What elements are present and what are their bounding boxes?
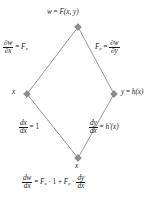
result-equals: = [34,179,38,187]
result-plus: + [58,179,62,187]
edge-label-top-right: Fy = ∂w ∂y [95,40,120,56]
node-label-top: w = F(x, y) [47,9,79,17]
result-term1: Fx [40,179,47,187]
result-equation: dw dx = Fx · 1 + Fy · dy dx [22,175,85,191]
chain-rule-tree-diagram: w = F(x, y) ∂w ∂x = Fx Fy = ∂w ∂y x y = … [0,0,163,201]
edge-label-top-right-denominator: ∂y [109,48,119,55]
result-term2: Fy [64,179,71,187]
edge-label-right-bottom: dy dx = h′(x) [89,120,119,136]
edge-label-top-right-lhs-sub: y [99,46,101,51]
edge-top-left-line [27,27,78,94]
edge-label-top-left-fraction: ∂w ∂x [3,40,13,56]
result-term1-sub: x [44,181,46,186]
result-lhs-denominator: dx [22,183,32,190]
node-label-right-equals: = [126,88,130,96]
result-term1-factor: 1 [53,179,57,187]
edge-top-right-line [78,27,114,94]
edge-label-top-left-rhs-sub: x [25,46,27,51]
tree-diagram-graphic [0,0,163,201]
edge-label-top-left-equals: = [15,44,19,52]
edge-label-left-bottom-equals: = [30,124,34,132]
node-marker-right [111,91,118,98]
result-dot1: · [48,179,50,187]
edge-label-right-bottom-rhs: h′(x) [105,124,118,132]
edge-label-right-bottom-equals: = [100,124,104,132]
edge-label-left-bottom-fraction: dx dx [19,120,28,136]
edge-label-right-bottom-denominator: dx [89,128,98,135]
edge-label-right-bottom-fraction: dy dx [89,120,98,136]
node-label-top-lhs: w [47,8,52,16]
result-term2-denominator: dx [76,183,85,190]
edge-label-left-bottom-rhs: 1 [35,124,39,132]
node-label-right-lhs: y [121,88,124,96]
edge-label-top-left: ∂w ∂x = Fx [3,40,28,56]
edge-label-top-left-denominator: ∂x [3,48,13,55]
edge-label-top-left-rhs: Fx [21,44,28,52]
node-label-right: y = h(x) [121,89,143,97]
node-label-top-equals: = [54,8,58,16]
result-term2-sub: y [68,181,70,186]
result-term2-fraction: dy dx [76,175,85,191]
node-label-right-rhs: h(x) [132,88,144,96]
edge-label-left-bottom: dx dx = 1 [19,120,39,136]
edge-label-top-right-equals: = [103,44,107,52]
result-dot2: · [72,179,74,187]
node-marker-top [75,24,82,31]
node-label-left: x [12,89,15,97]
result-lhs-fraction: dw dx [22,175,32,191]
node-label-top-rhs: F(x, y) [59,8,78,16]
node-label-bottom: x [75,163,78,171]
edge-label-top-right-lhs: Fy [95,44,102,52]
edge-label-top-right-fraction: ∂w ∂y [109,40,119,56]
edge-label-left-bottom-denominator: dx [19,128,28,135]
